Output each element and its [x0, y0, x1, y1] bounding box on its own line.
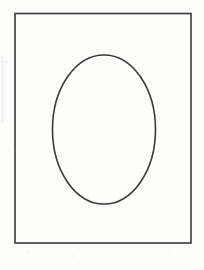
inner-ellipse: [53, 55, 156, 204]
outer-rectangle: [15, 14, 191, 244]
scan-edge-smudge: [2, 56, 4, 122]
drawing-canvas: Rectangle with inscribed ellipse A black…: [0, 0, 204, 270]
line-drawing-svg: [0, 0, 204, 270]
